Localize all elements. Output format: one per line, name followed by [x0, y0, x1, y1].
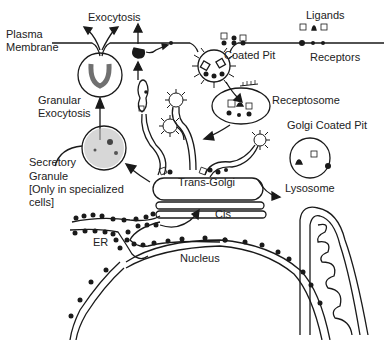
- label-exocytosis: Exocytosis: [88, 11, 141, 24]
- label-trans-golgi: Trans-Golgi: [178, 176, 235, 189]
- constitutive-vesicle: [133, 24, 168, 58]
- label-granular: Granular: [38, 94, 81, 107]
- label-secretory: Secretory: [29, 156, 76, 169]
- label-granular-exocytosis: Exocytosis: [38, 107, 91, 120]
- er-to-cis-arrow: [160, 215, 196, 227]
- exocytosis-arrows: [84, 27, 118, 50]
- label-cis: Cis: [215, 208, 231, 221]
- label-nucleus: Nucleus: [180, 252, 220, 265]
- label-coated-pit: Coated Pit: [224, 49, 275, 62]
- fusing-granule: [78, 53, 122, 97]
- label-ligands: Ligands: [306, 9, 345, 22]
- secretory-granule: [82, 126, 126, 170]
- label-lysosome: Lysosome: [285, 182, 335, 195]
- label-cells: cells]: [29, 196, 54, 209]
- ligands-receptors: [299, 24, 327, 46]
- label-receptosome: Receptosome: [272, 94, 340, 107]
- label-er: ER: [93, 236, 108, 249]
- golgi-stems: [142, 107, 258, 177]
- mitochondrion: [300, 207, 368, 335]
- lysosome: [290, 138, 331, 178]
- label-golgi-coated-pit: Golgi Coated Pit: [287, 119, 367, 132]
- nuclear-ribosomes: [69, 238, 323, 319]
- membrane-receptor-complex: [221, 33, 246, 46]
- label-only-specialized: [Only in specialized: [29, 183, 124, 196]
- label-plasma: Plasma: [6, 28, 43, 41]
- label-membrane: Membrane: [6, 41, 59, 54]
- elongated-vesicle: [134, 62, 148, 112]
- label-receptors: Receptors: [310, 51, 360, 64]
- label-granule: Granule: [29, 170, 68, 183]
- cis-golgi: [156, 202, 266, 218]
